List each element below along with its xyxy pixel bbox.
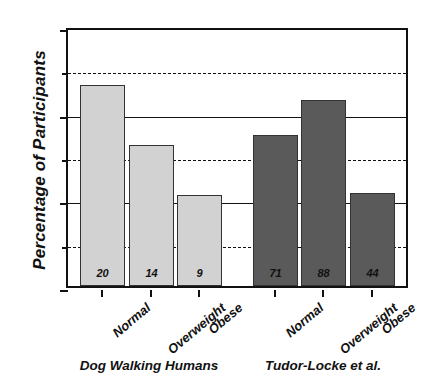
x-tick-mark bbox=[150, 290, 152, 297]
x-tick-mark bbox=[322, 290, 324, 297]
group-label: Dog Walking Humans bbox=[80, 358, 219, 373]
y-tick-mark-10 bbox=[62, 247, 68, 249]
x-tick-mark bbox=[198, 290, 200, 297]
y-tick-mark-40 bbox=[60, 117, 68, 119]
bar: 14 bbox=[129, 145, 174, 286]
y-tick-mark-50 bbox=[62, 73, 68, 75]
y-tick-mark-30 bbox=[62, 160, 68, 162]
y-tick-mark-20 bbox=[60, 203, 68, 205]
bar: 44 bbox=[350, 193, 395, 286]
bar-value-label: 44 bbox=[351, 267, 394, 279]
bar: 71 bbox=[253, 135, 298, 286]
x-tick-mark bbox=[371, 290, 373, 297]
bar: 9 bbox=[177, 195, 222, 286]
bar: 88 bbox=[301, 100, 346, 286]
plot-area: 20149718844 bbox=[66, 28, 408, 288]
bar-value-label: 71 bbox=[254, 267, 297, 279]
x-tick-mark bbox=[101, 290, 103, 297]
bar-value-label: 9 bbox=[178, 267, 221, 279]
x-category-label: Normal bbox=[282, 300, 326, 340]
x-tick-mark bbox=[274, 290, 276, 297]
bar-value-label: 14 bbox=[130, 267, 173, 279]
y-tick-mark-60 bbox=[60, 30, 68, 32]
y-tick-mark-0 bbox=[60, 290, 68, 292]
bar-value-label: 20 bbox=[81, 267, 124, 279]
group-label: Tudor-Locke et al. bbox=[265, 358, 381, 373]
gridline-50 bbox=[68, 73, 406, 74]
x-category-label: Normal bbox=[109, 300, 153, 340]
bar: 20 bbox=[80, 85, 125, 286]
bar-chart: Percentage of Participants 20149718844 0… bbox=[0, 0, 430, 385]
y-axis-title: Percentage of Participants bbox=[30, 35, 50, 285]
bar-value-label: 88 bbox=[302, 267, 345, 279]
